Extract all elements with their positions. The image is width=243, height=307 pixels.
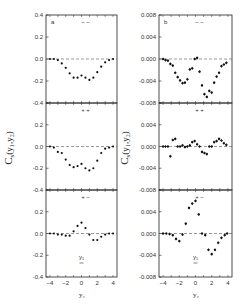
data-point bbox=[220, 139, 222, 141]
data-point bbox=[73, 230, 75, 232]
data-point bbox=[69, 164, 71, 166]
data-point bbox=[169, 155, 171, 157]
data-point bbox=[179, 79, 181, 81]
data-point bbox=[162, 232, 164, 234]
y-tick-label: -0.004 bbox=[139, 252, 157, 258]
data-point bbox=[207, 249, 209, 251]
y-tick-label: 0.0 bbox=[35, 56, 44, 62]
x-tick-label: 2 bbox=[96, 280, 100, 286]
y-tick-label: -0.004 bbox=[139, 165, 157, 171]
data-point bbox=[177, 145, 179, 147]
data-point bbox=[185, 223, 187, 225]
y-tick-label: -0.008 bbox=[139, 274, 157, 280]
x-tick-label: 2 bbox=[210, 280, 214, 286]
x-tick-label: −2 bbox=[62, 280, 70, 286]
data-point bbox=[53, 146, 55, 148]
figure: 0.40.20.0-0.2-0.4− −a0.0080.0040.000-0.0… bbox=[0, 0, 243, 307]
data-point bbox=[213, 141, 215, 143]
data-point bbox=[61, 152, 63, 154]
data-point bbox=[175, 238, 177, 240]
y1-marker-label: y₁ bbox=[79, 254, 84, 260]
data-point bbox=[167, 60, 169, 62]
data-point bbox=[61, 62, 63, 64]
y-tick-label: 0.008 bbox=[141, 12, 157, 18]
data-point bbox=[84, 167, 86, 169]
data-point bbox=[162, 58, 164, 60]
data-point bbox=[211, 91, 213, 93]
data-point bbox=[112, 58, 114, 60]
data-point bbox=[162, 145, 164, 147]
data-point bbox=[73, 166, 75, 168]
data-point bbox=[188, 207, 190, 209]
data-point bbox=[179, 145, 181, 147]
panel-a-row-2: 0.20.0-0.2-0.4+ + bbox=[33, 103, 117, 193]
data-point bbox=[191, 202, 193, 204]
x-tick-label: −2 bbox=[176, 280, 184, 286]
y-tick-label: 0.2 bbox=[35, 34, 44, 40]
data-point bbox=[191, 141, 193, 143]
data-point bbox=[88, 79, 90, 81]
y-tick-label: -0.2 bbox=[33, 252, 44, 258]
data-point bbox=[196, 57, 198, 59]
data-point bbox=[215, 140, 217, 142]
y-tick-label: 0.000 bbox=[141, 56, 157, 62]
y-tick-label: 0.0 bbox=[35, 231, 44, 237]
data-point bbox=[224, 234, 226, 236]
data-point bbox=[181, 82, 183, 84]
data-point bbox=[168, 233, 170, 235]
data-point bbox=[165, 232, 167, 234]
data-point bbox=[164, 59, 166, 61]
y-tick-label: -0.008 bbox=[139, 100, 157, 106]
data-point bbox=[198, 71, 200, 73]
data-point bbox=[214, 249, 216, 251]
data-point bbox=[76, 165, 78, 167]
data-point bbox=[53, 232, 55, 234]
data-point bbox=[184, 82, 186, 84]
panel-b-row-3: 0.0040.000-0.004-0.008−4−2024+ −y₁ bbox=[139, 190, 232, 286]
charge-combination-label: + + bbox=[81, 107, 90, 113]
data-point bbox=[61, 233, 63, 235]
y-tick-label: -0.4 bbox=[33, 187, 44, 193]
data-point bbox=[191, 67, 193, 69]
data-point bbox=[76, 225, 78, 227]
data-point bbox=[186, 78, 188, 80]
data-point bbox=[57, 233, 59, 235]
data-point bbox=[225, 62, 227, 64]
data-point bbox=[96, 160, 98, 162]
data-point bbox=[184, 146, 186, 148]
data-point bbox=[206, 96, 208, 98]
data-point bbox=[57, 59, 59, 61]
data-point bbox=[49, 145, 51, 147]
y-tick-label: 0.2 bbox=[35, 209, 44, 215]
data-point bbox=[80, 74, 82, 76]
data-point bbox=[213, 82, 215, 84]
panel-letter: a bbox=[51, 19, 55, 25]
data-point bbox=[49, 58, 51, 60]
data-point bbox=[211, 145, 213, 147]
data-point bbox=[57, 151, 59, 153]
x-tick-label: −4 bbox=[160, 280, 168, 286]
x-tick-label: −4 bbox=[47, 280, 55, 286]
data-point bbox=[92, 77, 94, 79]
charge-combination-label: + − bbox=[81, 194, 90, 200]
data-point bbox=[198, 213, 200, 215]
charge-combination-label: + + bbox=[195, 107, 204, 113]
y-tick-label: 0.004 bbox=[141, 209, 157, 215]
panel-b-row-2: 0.0040.000-0.004-0.008+ + bbox=[139, 103, 232, 193]
y-tick-label: 0.000 bbox=[141, 144, 157, 150]
charge-combination-label: − − bbox=[195, 19, 204, 25]
data-point bbox=[220, 65, 222, 67]
y-tick-label: 0.000 bbox=[141, 231, 157, 237]
data-point bbox=[100, 66, 102, 68]
y-tick-label: -0.004 bbox=[139, 78, 157, 84]
data-point bbox=[100, 236, 102, 238]
panel-a-row-3: 0.20.0-0.2-0.4−4−2024+ −y₁ bbox=[33, 190, 117, 286]
data-point bbox=[172, 234, 174, 236]
y-tick-label: 0.004 bbox=[141, 34, 157, 40]
data-point bbox=[104, 148, 106, 150]
data-point bbox=[220, 237, 222, 239]
x-tick-label: 0 bbox=[194, 280, 198, 286]
data-point bbox=[172, 139, 174, 141]
data-point bbox=[174, 72, 176, 74]
data-point bbox=[53, 58, 55, 60]
